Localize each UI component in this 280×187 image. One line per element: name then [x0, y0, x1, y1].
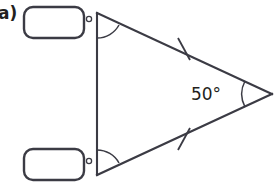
tick-mark-lower-side — [178, 128, 190, 150]
angle-arc-right-vertex — [242, 81, 245, 107]
triangle-diagram-canvas: a) 50° — [0, 0, 280, 187]
geometry-problem-figure: a) 50° — [0, 0, 280, 187]
triangle-side-lower-right — [97, 94, 272, 175]
triangle-side-upper-right — [97, 13, 272, 94]
answer-box-bottom-angle[interactable] — [24, 149, 84, 180]
known-angle-label: 50° — [191, 84, 221, 104]
part-label: a) — [0, 3, 17, 23]
angle-arc-top-vertex — [97, 25, 119, 38]
answer-box-top-angle[interactable] — [24, 7, 84, 38]
tick-mark-upper-side — [178, 38, 190, 60]
angle-arc-bottom-vertex — [97, 150, 119, 163]
degree-symbol-bottom — [86, 158, 91, 163]
degree-symbol-top — [86, 16, 91, 21]
